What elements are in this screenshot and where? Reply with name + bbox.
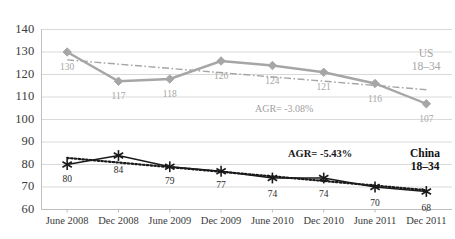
data-label: 118 [150,89,190,99]
data-label: 74 [304,189,344,199]
y-axis-tick-label: 70 [0,179,35,194]
series-label-us-line2: 18–34 [398,60,454,73]
data-label: 107 [406,114,446,124]
data-label: 130 [47,62,87,72]
data-label: 77 [201,180,241,190]
series-label-china-line2: 18–34 [396,160,454,173]
data-label: 116 [355,94,395,104]
data-label: 80 [47,174,87,184]
y-axis-tick-label: 120 [0,67,35,82]
data-point-marker [166,75,174,83]
series-label-us-line1: US [398,47,454,60]
data-point-marker [371,79,379,87]
data-label: 126 [201,71,241,81]
series-label-us: US18–34 [398,47,454,73]
data-point-marker [268,61,276,69]
data-label: 74 [252,189,292,199]
chart-container: 60708090100110120130140June 2008Dec 2008… [0,0,455,239]
x-axis-category-label: Dec 2011 [391,215,455,226]
y-axis-tick-label: 140 [0,22,35,37]
y-axis-tick-label: 110 [0,89,35,104]
data-label: 117 [98,91,138,101]
data-point-marker [422,100,430,108]
y-axis-tick-label: 80 [0,157,35,172]
series-label-china: China18–34 [396,147,454,173]
agr-annotation-us: AGR= -3.08% [255,103,313,114]
data-label: 70 [355,198,395,208]
y-axis-tick-label: 130 [0,44,35,59]
data-point-marker [320,68,328,76]
y-axis-tick-label: 90 [0,134,35,149]
data-point-marker [217,57,225,65]
data-label: 124 [252,76,292,86]
y-axis-tick-label: 60 [0,202,35,217]
data-label: 121 [304,82,344,92]
data-label: 79 [150,176,190,186]
data-label: 68 [406,203,446,213]
data-label: 84 [98,165,138,175]
series-label-china-line1: China [396,147,454,160]
y-axis-tick-label: 100 [0,112,35,127]
agr-annotation-china: AGR= -5.43% [288,148,352,159]
